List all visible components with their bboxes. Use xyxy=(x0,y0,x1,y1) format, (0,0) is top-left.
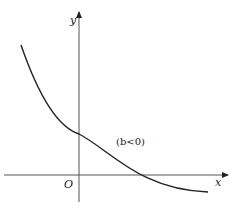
origin-label: O xyxy=(64,178,73,191)
decreasing-curve xyxy=(21,45,208,192)
x-axis-label: x xyxy=(215,176,222,189)
curve-annotation: (b<0) xyxy=(116,136,145,147)
y-axis-label: y xyxy=(69,14,77,27)
function-graph: y x O (b<0) xyxy=(0,0,238,208)
